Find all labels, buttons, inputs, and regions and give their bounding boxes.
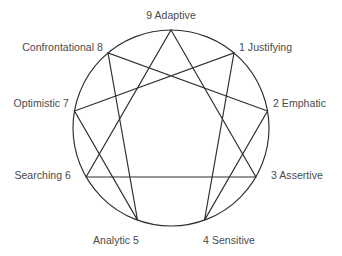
enneagram-inner-triangle	[86, 30, 256, 177]
point-label-3-assertive: 3 Assertive	[271, 169, 323, 182]
point-label-4-sensitive: 4 Sensitive	[203, 234, 255, 247]
point-label-5-analytic: Analytic 5	[93, 234, 139, 247]
point-label-6-searching: Searching 6	[14, 169, 71, 182]
enneagram-outer-circle	[73, 30, 269, 226]
point-label-1-justifying: 1 Justifying	[239, 41, 292, 54]
point-label-8-confrontational: Confrontational 8	[22, 41, 103, 54]
enneagram-hexad-figure	[75, 53, 268, 220]
point-label-7-optimistic: Optimistic 7	[14, 97, 69, 110]
enneagram-canvas	[0, 0, 342, 256]
enneagram-diagram: 9 Adaptive 1 Justifying 2 Emphatic 3 Ass…	[0, 0, 342, 256]
point-label-2-emphatic: 2 Emphatic	[273, 97, 326, 110]
point-label-9-adaptive: 9 Adaptive	[146, 9, 196, 22]
